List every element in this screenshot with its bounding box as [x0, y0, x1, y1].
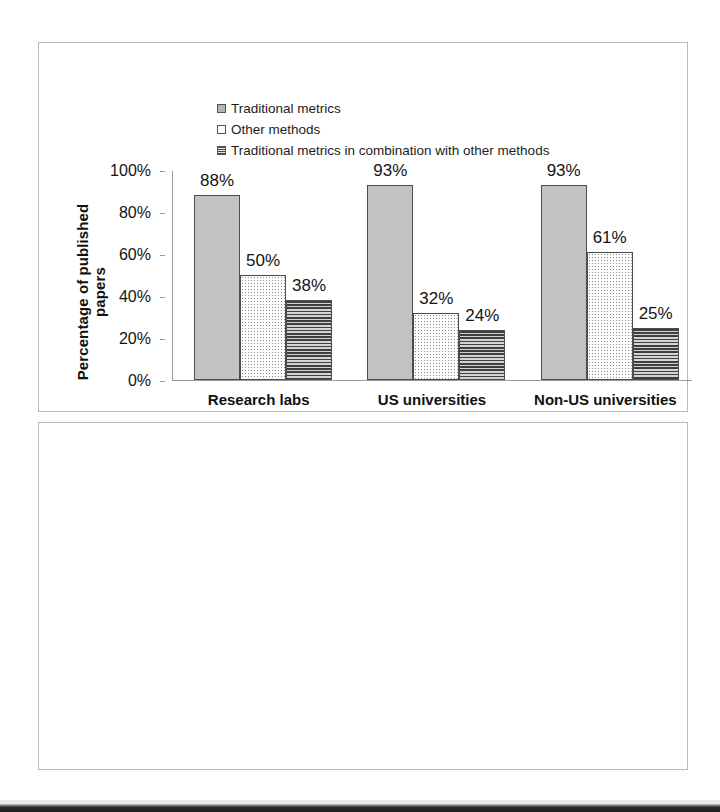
legend-swatch-striped-icon: [217, 146, 226, 155]
legend-item-other-methods: Other methods: [217, 119, 549, 140]
y-tick-mark: [160, 297, 165, 298]
chart-1-y-tick-labels: 0%20%40%60%80%100%: [39, 171, 165, 381]
y-tick-mark: [160, 171, 165, 172]
bar: 38%: [286, 300, 332, 380]
bar: 24%: [459, 330, 505, 380]
chart-1-frame: Traditional metrics Other methods Tradit…: [38, 42, 688, 412]
bar-value-label: 93%: [547, 161, 581, 181]
legend-label: Traditional metrics in combination with …: [231, 144, 549, 158]
bar: 25%: [633, 328, 679, 381]
bar: 93%: [541, 185, 587, 380]
legend-label: Traditional metrics: [231, 102, 341, 116]
bar: 32%: [413, 313, 459, 380]
chart-1-plot-area: 88%50%38%93%32%24%93%61%25%: [172, 171, 692, 381]
category-label: US universities: [333, 391, 530, 408]
bar-value-label: 50%: [246, 251, 280, 271]
legend-swatch-white-icon: [217, 125, 226, 134]
bar: 50%: [240, 275, 286, 380]
chart-1-y-axis: [172, 171, 173, 381]
bar-group: 88%50%38%: [194, 195, 332, 380]
bar-group: 93%32%24%: [367, 185, 505, 380]
legend-item-combination: Traditional metrics in combination with …: [217, 140, 549, 161]
bar-value-label: 88%: [200, 171, 234, 191]
scan-artifact-dark: [0, 803, 720, 812]
figure-page: Traditional metrics Other methods Tradit…: [0, 0, 720, 812]
chart-1-x-axis: [172, 380, 692, 381]
y-tick-mark: [160, 381, 165, 382]
y-tick-mark: [160, 339, 165, 340]
category-label: Non-US universities: [507, 391, 704, 408]
bar-value-label: 93%: [373, 161, 407, 181]
y-tick-label: 0%: [128, 372, 151, 390]
bar-value-label: 38%: [292, 276, 326, 296]
y-tick-mark: [160, 213, 165, 214]
bar-value-label: 32%: [419, 289, 453, 309]
y-tick-label: 20%: [119, 330, 151, 348]
chart-2-frame: Traditional metrics Other methods 0%20%4…: [38, 422, 688, 770]
bar-value-label: 25%: [639, 304, 673, 324]
y-tick-label: 40%: [119, 288, 151, 306]
y-tick-label: 80%: [119, 204, 151, 222]
legend-swatch-gray-icon: [217, 104, 226, 113]
bar: 93%: [367, 185, 413, 380]
bar-value-label: 24%: [465, 306, 499, 326]
bar: 61%: [587, 252, 633, 380]
y-tick-label: 100%: [110, 162, 151, 180]
y-tick-label: 60%: [119, 246, 151, 264]
legend-label: Other methods: [231, 123, 320, 137]
legend-item-traditional-metrics: Traditional metrics: [217, 98, 549, 119]
category-label: Research labs: [160, 391, 357, 408]
bar-value-label: 61%: [593, 228, 627, 248]
chart-1-legend: Traditional metrics Other methods Tradit…: [217, 98, 549, 161]
bar-group: 93%61%25%: [541, 185, 679, 380]
bar: 88%: [194, 195, 240, 380]
y-tick-mark: [160, 255, 165, 256]
